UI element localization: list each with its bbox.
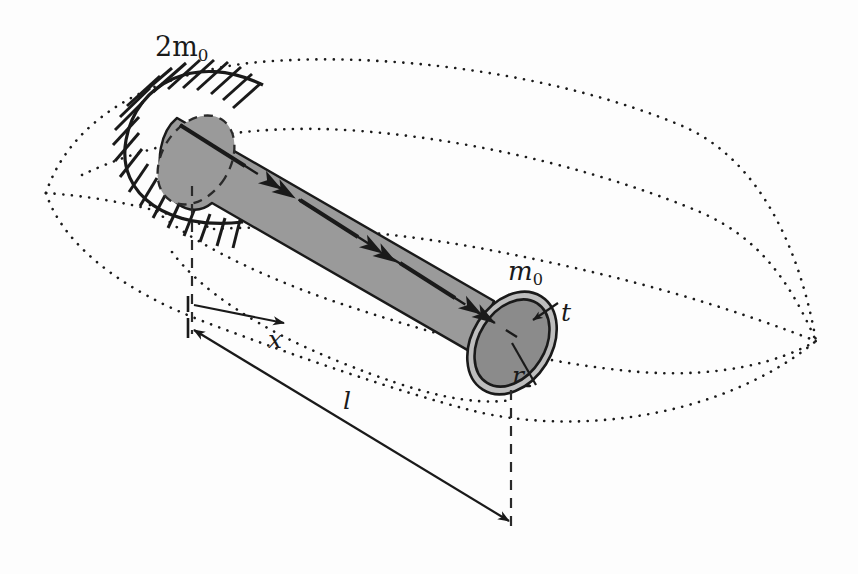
label-length-l: l — [343, 388, 351, 413]
label-fixed-end-mass: 2m0 — [155, 33, 208, 63]
label-radius: r — [512, 363, 524, 388]
figure-canvas: 2m0 m0 t r x l — [0, 0, 858, 574]
label-coordinate-x: x — [268, 327, 282, 352]
diagram-svg — [0, 0, 858, 574]
label-free-end-mass: m0 — [508, 258, 543, 288]
x-dimension-arrow — [194, 305, 284, 323]
deformation-contours — [46, 59, 816, 421]
l-dimension-arrow — [194, 330, 509, 521]
label-thickness: t — [561, 300, 571, 325]
